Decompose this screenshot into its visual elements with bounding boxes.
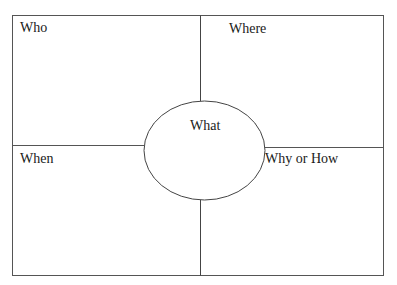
quadrant-label-when: When	[20, 151, 53, 167]
center-label-what: What	[190, 118, 220, 134]
quadrant-label-who: Who	[20, 20, 47, 36]
organizer-lines	[0, 0, 397, 285]
quadrant-label-why-or-how: Why or How	[265, 151, 338, 167]
quadrant-label-where: Where	[229, 21, 266, 37]
center-ellipse	[144, 101, 265, 200]
five-w-organizer: Who Where What When Why or How	[0, 0, 397, 285]
